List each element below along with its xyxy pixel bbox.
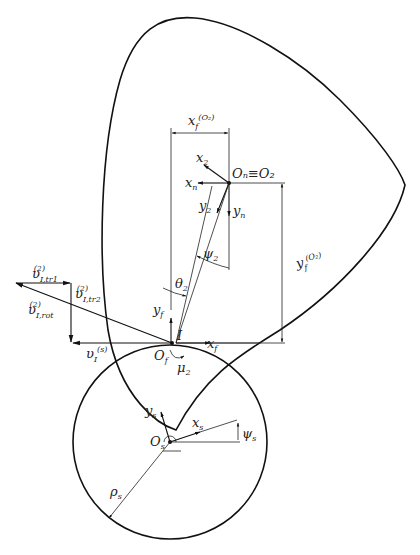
label-psi2: ψ2 [203, 246, 218, 263]
label-v-tr1: υI,tr1(2) [32, 264, 58, 284]
label-I: I [176, 328, 183, 343]
label-xs: xs [192, 415, 203, 432]
label-yf-O2: yf(O₂) [294, 251, 324, 274]
label-ys: ys [144, 403, 156, 420]
label-yn: yn [232, 203, 246, 220]
label-xf-O2: xf(O₂) [188, 113, 214, 131]
label-xf: xf [207, 336, 219, 353]
label-Os: Os [150, 434, 165, 451]
label-yf: yf [152, 302, 165, 319]
cam-profile [102, 18, 405, 430]
label-psis: ψs [242, 426, 256, 443]
frame-Os [109, 412, 240, 518]
label-v-rot: υI,rot(2) [28, 300, 54, 320]
label-rhos: ρs [109, 484, 122, 501]
cam-follower-diagram: xf(O₂) Oₙ≡O₂ x2 xn y2 yn ψ2 θ2 yf I xf O… [0, 0, 420, 555]
label-mu2: μ2 [177, 360, 191, 377]
label-v-tr2: υI,tr2(2) [75, 284, 101, 304]
label-xn: xn [185, 175, 198, 192]
label-theta2: θ2 [175, 276, 188, 293]
label-y2: y2 [198, 198, 211, 215]
dimension-yf-O2 [176, 183, 285, 343]
label-Of: Of [154, 348, 170, 365]
label-x2: x2 [196, 150, 208, 167]
label-v-s: υI(s) [86, 345, 107, 364]
label-On-O2: Oₙ≡O₂ [232, 166, 275, 181]
